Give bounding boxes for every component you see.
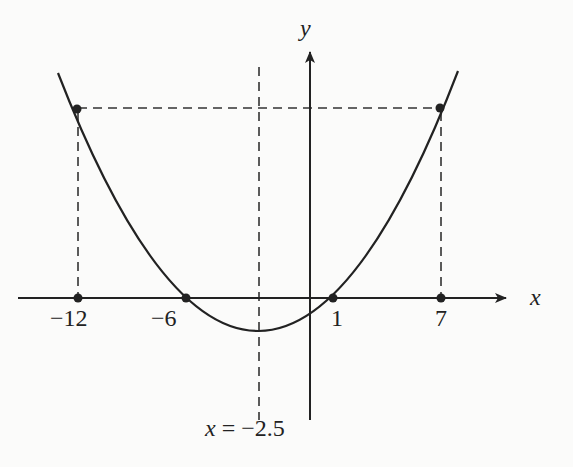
point-x-7 — [437, 294, 446, 303]
point-top-left — [73, 105, 82, 114]
tick-label-1: 1 — [331, 305, 343, 331]
tick-label-7: 7 — [435, 305, 447, 331]
x-axis-label: x — [529, 284, 541, 310]
dashed-guides — [78, 67, 441, 420]
parabola-curve — [58, 71, 458, 331]
aos-eq: = −2.5 — [216, 415, 285, 441]
point-x-1 — [329, 294, 338, 303]
tick-label-neg12: −12 — [50, 305, 88, 331]
point-x-neg12 — [74, 294, 83, 303]
parabola-diagram: y x −12 −6 1 7 x = −2.5 — [0, 0, 573, 467]
axis-of-symmetry-label: x = −2.5 — [204, 415, 285, 441]
point-top-right — [436, 104, 445, 113]
point-x-neg6 — [182, 294, 191, 303]
y-axis-label: y — [298, 15, 311, 41]
aos-x: x — [204, 415, 216, 441]
tick-label-neg6: −6 — [151, 305, 177, 331]
